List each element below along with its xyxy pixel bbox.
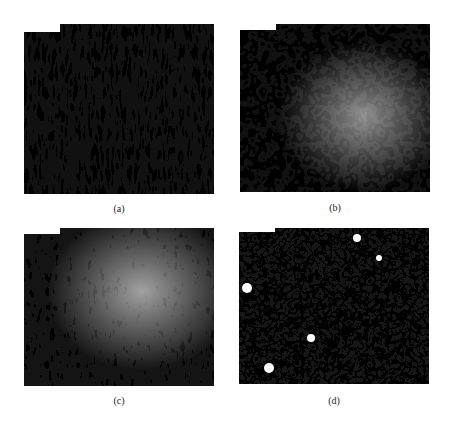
- label-a: (a): [99, 203, 139, 214]
- panel-b: [240, 24, 430, 192]
- texture-elongated-ridges: [24, 24, 214, 194]
- panel-notch: [24, 228, 60, 234]
- panel-c: [24, 228, 214, 386]
- label-b: (b): [315, 202, 355, 213]
- panel-notch: [240, 24, 276, 30]
- label-d: (d): [314, 395, 354, 406]
- texture-branching-ridges: [24, 228, 214, 386]
- panel-notch: [239, 228, 275, 232]
- panel-notch: [24, 24, 60, 32]
- texture-cellular-network: [240, 24, 430, 192]
- panel-a: [24, 24, 214, 194]
- panel-d: [239, 228, 429, 384]
- label-c: (c): [99, 395, 139, 406]
- texture-fine-cellular: [239, 228, 429, 384]
